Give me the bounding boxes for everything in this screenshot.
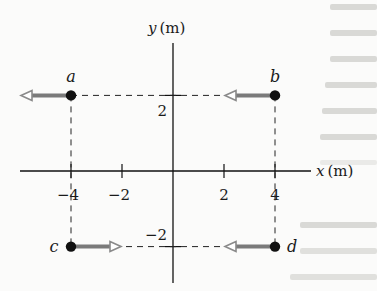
y-tick-label: 2	[157, 102, 167, 120]
y-axis-label: y(m)	[147, 19, 185, 37]
x-tick-label: 2	[219, 186, 229, 204]
x-tick-label: −2	[108, 186, 130, 204]
particle-label-b: b	[270, 67, 280, 86]
x-axis-label: x(m)	[316, 162, 353, 180]
particle-label-c: c	[50, 237, 59, 256]
particle-d	[270, 241, 280, 251]
velocity-arrow-head-b	[225, 90, 236, 100]
particle-b	[270, 90, 280, 100]
figure-container: x(m) y(m) −4−2242−2 abcd	[0, 0, 377, 291]
velocity-arrow-head-a	[21, 90, 32, 100]
particle-c	[66, 241, 76, 251]
x-tick-label: −4	[57, 186, 79, 204]
velocity-arrow-head-c	[110, 242, 121, 252]
particle-label-d: d	[287, 237, 297, 256]
y-tick-label: −2	[145, 226, 167, 244]
particle-label-a: a	[66, 67, 76, 86]
velocity-arrow-head-d	[225, 242, 236, 252]
particle-a	[66, 90, 76, 100]
kinematics-diagram: x(m) y(m) −4−2242−2 abcd	[0, 0, 377, 291]
